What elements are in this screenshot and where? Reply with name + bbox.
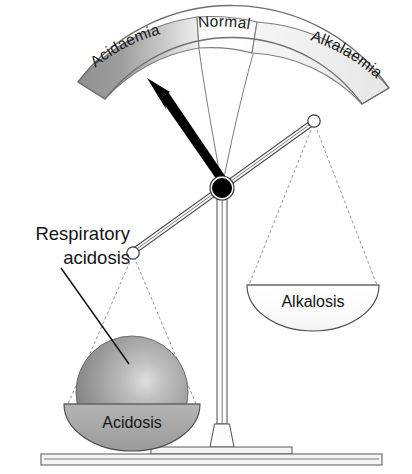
pointer-needle-shaft[interactable] (160, 93, 229, 187)
base-plate-shelf (151, 447, 292, 454)
pivot-hub-icon (213, 179, 232, 198)
pointer-needle-group[interactable] (147, 78, 229, 187)
alkalosis-pan-group[interactable]: Alkalosis (247, 115, 379, 331)
base-plate-board (41, 454, 382, 465)
callout-line-2: acidosis (63, 247, 130, 268)
figure-root: Acidaemia Normal Alkalaemia (0, 0, 412, 474)
gauge-arc-band: Acidaemia Normal Alkalaemia (78, 6, 389, 104)
alkalosis-cord-right (315, 125, 377, 285)
centre-post (210, 192, 234, 447)
alkalosis-hanger-knob (308, 115, 320, 127)
pivot-group (210, 176, 234, 200)
acidosis-pan-label: Acidosis (102, 414, 162, 431)
base-plate-group (41, 447, 382, 465)
arc-label-normal: Normal (197, 13, 251, 33)
alkalosis-pan-label: Alkalosis (281, 293, 344, 310)
callout-line-1: Respiratory (35, 223, 130, 244)
gauge-divider-lines (199, 49, 253, 188)
acidosis-pan-group[interactable]: Acidosis (64, 247, 200, 451)
acid-base-scale-diagram: Acidaemia Normal Alkalaemia (0, 0, 412, 474)
post-foot (210, 424, 234, 447)
